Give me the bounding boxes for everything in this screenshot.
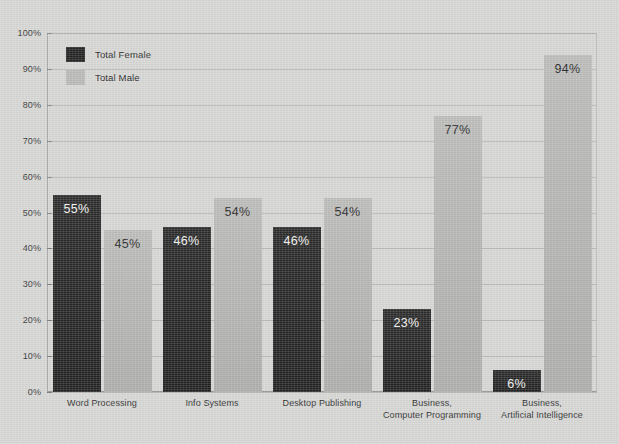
legend-label: Total Female (95, 49, 151, 60)
legend-color-swatch (66, 70, 85, 85)
y-axis-tick-label: 50% (0, 208, 41, 218)
y-axis-tick-label: 30% (0, 279, 41, 289)
legend-color-swatch (66, 47, 85, 62)
y-axis-tick-label: 70% (0, 136, 41, 146)
y-axis-tick-label: 80% (0, 100, 41, 110)
y-axis-tick-label: 100% (0, 28, 41, 38)
x-axis-category-label: Desktop Publishing (267, 398, 377, 410)
bar-value-label: 6% (493, 377, 541, 391)
category-label-line: Business, (377, 398, 487, 410)
y-axis-tick-label: 20% (0, 315, 41, 325)
y-axis-tick-label: 0% (0, 387, 41, 397)
category-label-line: Artificial Intelligence (487, 410, 597, 422)
y-axis-tick-mark (47, 33, 52, 34)
category-label-line: Business, (487, 398, 597, 410)
y-axis-tick-mark (47, 105, 52, 106)
chart-title (0, 0, 619, 2)
y-axis-tick-mark (47, 177, 52, 178)
y-axis-tick-label: 90% (0, 64, 41, 74)
gridline (47, 392, 597, 393)
y-axis-tick-mark (47, 284, 52, 285)
y-axis-tick-mark (47, 69, 52, 70)
y-axis-tick-mark (47, 213, 52, 214)
y-axis-tick-label: 40% (0, 243, 41, 253)
y-axis-tick-mark (47, 392, 52, 393)
chart-legend: Total FemaleTotal Male (66, 44, 151, 90)
bar-male[interactable]: 94% (544, 55, 592, 392)
x-axis-category-label: Business,Artificial Intelligence (487, 398, 597, 421)
y-axis-tick-mark (47, 356, 52, 357)
y-axis-tick-label: 10% (0, 351, 41, 361)
bar-chart: 55%45%46%54%46%54%23%77%6%94% 0%10%20%30… (0, 0, 619, 444)
category-label-line: Info Systems (157, 398, 267, 410)
legend-item[interactable]: Total Female (66, 44, 151, 64)
legend-item[interactable]: Total Male (66, 67, 151, 87)
x-axis-category-label: Word Processing (47, 398, 157, 410)
y-axis-tick-mark (47, 248, 52, 249)
category-label-line: Word Processing (47, 398, 157, 410)
x-axis-category-label: Info Systems (157, 398, 267, 410)
y-axis-tick-mark (47, 320, 52, 321)
category-label-line: Desktop Publishing (267, 398, 377, 410)
bar-female[interactable]: 6% (493, 370, 541, 392)
y-axis-tick-label: 60% (0, 172, 41, 182)
y-axis-tick-mark (47, 141, 52, 142)
x-axis-category-label: Business,Computer Programming (377, 398, 487, 421)
bar-value-label: 94% (544, 62, 592, 76)
legend-label: Total Male (95, 72, 140, 83)
category-label-line: Computer Programming (377, 410, 487, 422)
